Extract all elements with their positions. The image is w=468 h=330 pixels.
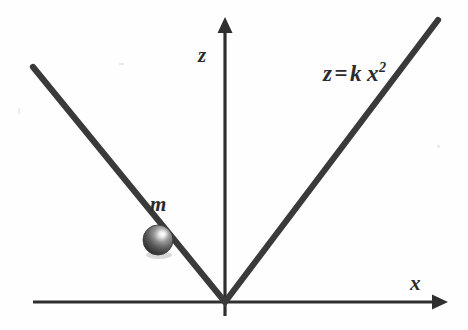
equation-coefficient: k [350, 61, 362, 86]
x-axis [33, 295, 448, 310]
x-axis-label: x [410, 273, 421, 294]
z-axis [218, 17, 233, 316]
mass-sphere [143, 225, 173, 259]
z-axis-arrowhead-icon [218, 17, 233, 33]
parabolic-well-figure: z x m z=kx2 [0, 0, 468, 330]
z-axis-label: z [198, 45, 206, 66]
equation-variable: x [367, 61, 379, 86]
equation-label: z=kx2 [323, 60, 387, 85]
equation-exponent: 2 [379, 59, 387, 75]
figure-canvas [0, 0, 468, 330]
mass-label: m [150, 194, 166, 215]
x-axis-arrowhead-icon [432, 295, 448, 310]
equation-operator: = [332, 61, 350, 86]
sphere-specular-highlight [158, 229, 169, 238]
